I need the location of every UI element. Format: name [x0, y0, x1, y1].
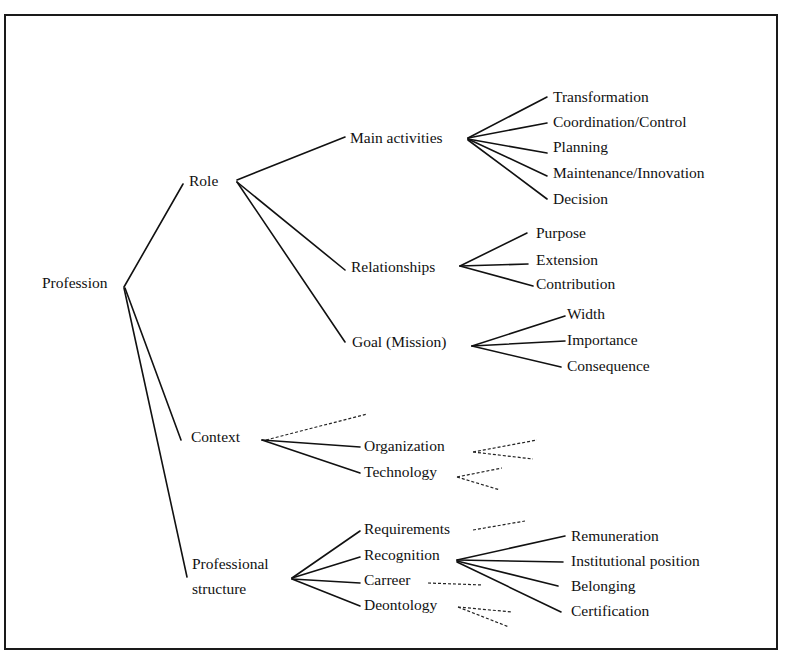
dashed-technology-a — [457, 468, 502, 477]
edge-profession-role — [124, 184, 183, 287]
dashed-carreer — [428, 583, 483, 585]
node-goal-mission: Goal (Mission) — [352, 333, 446, 351]
edge-goal-consequence — [472, 346, 561, 367]
node-maintenance-innovation: Maintenance/Innovation — [553, 164, 705, 182]
node-remuneration: Remuneration — [571, 527, 659, 545]
node-professional-structure-line1: Professional — [192, 555, 269, 573]
node-recognition: Recognition — [364, 546, 440, 564]
edge-context-organization — [262, 440, 360, 447]
edge-role-goal — [237, 182, 345, 342]
diagram-canvas: Profession Role Context Professional str… — [0, 0, 789, 658]
node-institutional-position: Institutional position — [571, 552, 700, 570]
node-importance: Importance — [567, 331, 638, 349]
node-organization: Organization — [364, 437, 445, 455]
node-role: Role — [189, 172, 218, 190]
node-coordination-control: Coordination/Control — [553, 113, 686, 131]
node-technology: Technology — [364, 463, 437, 481]
node-requirements: Requirements — [364, 520, 450, 538]
dashed-deontology-b — [458, 607, 509, 627]
dashed-technology-b — [457, 477, 500, 490]
edge-recognition-remuneration — [457, 536, 565, 560]
edge-rel-extension — [460, 264, 528, 266]
edge-structure-recognition — [292, 557, 360, 578]
node-belonging: Belonging — [571, 577, 636, 595]
edge-recognition-institutional — [457, 560, 563, 562]
node-consequence: Consequence — [567, 357, 650, 375]
node-extension: Extension — [536, 251, 598, 269]
node-width: Width — [567, 305, 605, 323]
node-carreer: Carreer — [364, 571, 410, 589]
node-main-activities: Main activities — [350, 129, 443, 147]
node-relationships: Relationships — [351, 258, 435, 276]
node-context: Context — [191, 428, 240, 446]
node-purpose: Purpose — [536, 224, 586, 242]
node-transformation: Transformation — [553, 88, 649, 106]
edge-main-planning — [468, 139, 547, 153]
node-decision: Decision — [553, 190, 608, 208]
dashed-requirements — [473, 521, 525, 530]
node-profession: Profession — [42, 274, 107, 292]
edge-context-technology — [262, 440, 360, 473]
edge-profession-context — [125, 288, 181, 440]
edge-main-coordination — [468, 123, 547, 138]
edge-main-decision — [468, 140, 547, 199]
dashed-organization-a — [473, 440, 537, 452]
node-deontology: Deontology — [364, 596, 437, 614]
edge-rel-contribution — [460, 266, 533, 286]
edge-rel-purpose — [460, 233, 527, 266]
edge-role-relationships — [237, 182, 345, 270]
node-professional-structure-line2: structure — [192, 580, 246, 598]
edge-role-main — [237, 137, 345, 180]
dashed-deontology-a — [458, 607, 512, 612]
node-certification: Certification — [571, 602, 649, 620]
node-planning: Planning — [553, 138, 608, 156]
node-contribution: Contribution — [536, 275, 615, 293]
edge-structure-requirements — [292, 531, 360, 578]
edge-recognition-belonging — [457, 561, 558, 586]
edge-main-transformation — [468, 97, 547, 138]
dashed-context-unexpanded — [266, 414, 367, 440]
edge-recognition-certification — [457, 562, 561, 612]
dashed-organization-b — [473, 452, 533, 459]
